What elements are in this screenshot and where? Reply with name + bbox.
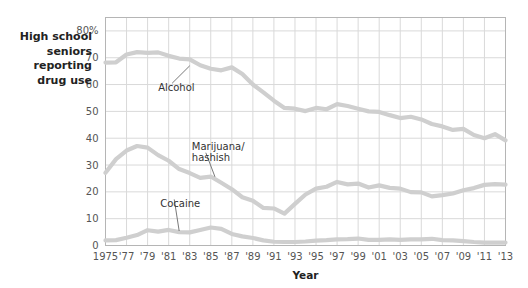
x-tick-label: '09: [456, 251, 471, 262]
x-tick-label: '83: [182, 251, 197, 262]
x-tick-label: '91: [266, 251, 281, 262]
y-tick-label: 40: [86, 133, 99, 144]
x-tick-label: '87: [224, 251, 239, 262]
x-tick-label: '81: [161, 251, 176, 262]
y-tick-label: 30: [86, 160, 99, 171]
x-tick-label: '11: [477, 251, 492, 262]
y-tick-label: 20: [86, 186, 99, 197]
drug-use-line-chart: 1975'77'79'81'83'85'87'89'91'93'95'97'99…: [0, 0, 528, 288]
y-tick-label: 10: [86, 213, 99, 224]
caption-line: drug use: [37, 74, 92, 87]
chart-background: [0, 0, 528, 288]
x-tick-label: '85: [203, 251, 218, 262]
x-tick-label: '79: [140, 251, 155, 262]
caption-line: seniors: [47, 45, 93, 58]
y-tick-label: 0: [92, 240, 98, 251]
chart-figure: 1975'77'79'81'83'85'87'89'91'93'95'97'99…: [0, 0, 528, 288]
x-tick-label: '07: [435, 251, 450, 262]
x-tick-label: '05: [414, 251, 429, 262]
x-tick-label: '89: [245, 251, 260, 262]
x-axis-title-text: Year: [291, 269, 319, 281]
annotation-label-cocaine: Cocaine: [160, 198, 200, 209]
annotation-label-marijuana: Marijuana/: [192, 141, 245, 152]
annotation-label-alcohol: Alcohol: [158, 82, 194, 93]
caption-line: reporting: [34, 59, 92, 72]
x-axis-title: Year: [291, 269, 319, 281]
x-tick-label: '93: [287, 251, 302, 262]
x-tick-label: '95: [308, 251, 323, 262]
x-tick-label: '03: [392, 251, 407, 262]
y-tick-label: 50: [86, 106, 99, 117]
x-tick-label: 1975: [93, 251, 118, 262]
caption-line: High school: [20, 30, 92, 43]
x-tick-label: '77: [119, 251, 134, 262]
x-tick-label: '13: [498, 251, 513, 262]
annotation-label-hashish: hashish: [192, 152, 230, 163]
x-tick-label: '99: [350, 251, 365, 262]
x-tick-label: '97: [329, 251, 344, 262]
x-tick-label: '01: [371, 251, 386, 262]
